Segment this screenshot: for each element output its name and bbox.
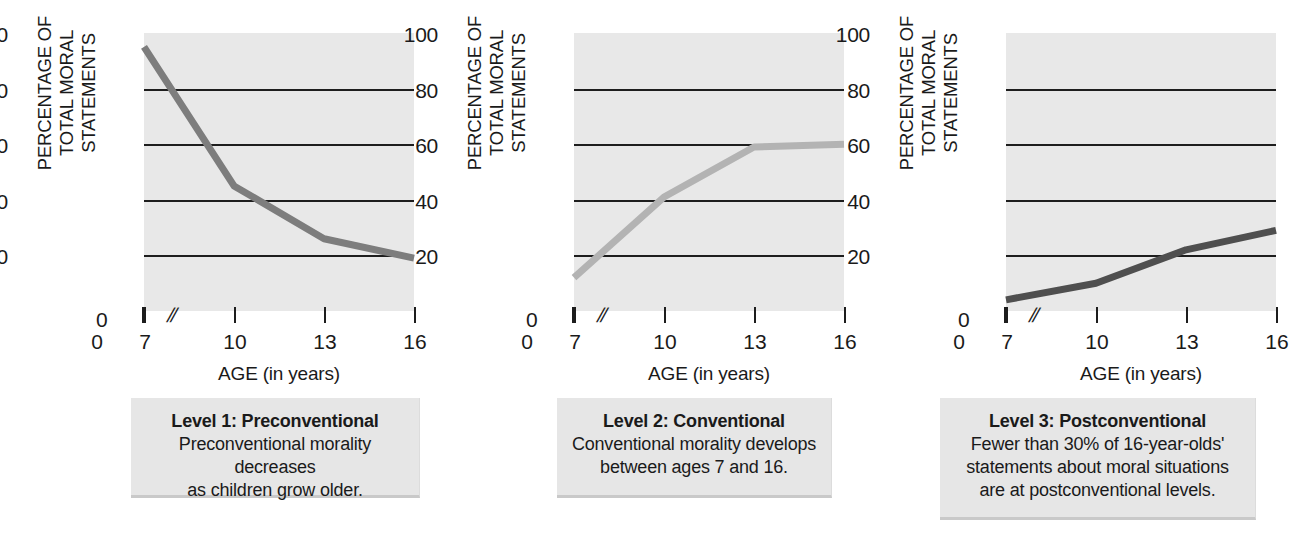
- y-tick-100: 100: [0, 24, 8, 45]
- x-tick-label-10: 10: [645, 331, 685, 352]
- x-axis-title: AGE (in years): [1006, 364, 1276, 383]
- chart-panel-level-1: PERCENTAGE OF TOTAL MORAL STATEMENTS 100…: [0, 0, 430, 557]
- moral-development-figure: PERCENTAGE OF TOTAL MORAL STATEMENTS 100…: [0, 0, 1292, 557]
- x-axis-zero-label: 0: [958, 309, 970, 330]
- x-tick-label-13: 13: [735, 331, 775, 352]
- y-axis-title: PERCENTAGE OF TOTAL MORAL STATEMENTS: [896, 0, 962, 208]
- y-tick-20: 20: [368, 246, 438, 267]
- plot-area: [144, 33, 414, 311]
- x-axis-title: AGE (in years): [144, 364, 414, 383]
- chart-level-1: PERCENTAGE OF TOTAL MORAL STATEMENTS 100…: [0, 0, 430, 375]
- y-tick-80: 80: [800, 80, 870, 101]
- x-axis-zero-label: 0: [96, 309, 108, 330]
- y-axis-title-line-1: PERCENTAGE OF: [896, 0, 918, 208]
- plot-area: [1006, 33, 1276, 311]
- x-tick-mark-7: [144, 307, 146, 323]
- y-tick-100: 100: [368, 24, 438, 45]
- x-axis-zero-label: 0: [526, 309, 538, 330]
- x-tick-label-0: 0: [939, 331, 979, 352]
- caption-title: Level 3: Postconventional: [950, 410, 1245, 433]
- x-axis-zero-row: 0 // 0 7 10 13 16: [958, 309, 1288, 337]
- x-tick-mark-16: [1276, 307, 1278, 323]
- y-tick-80: 80: [0, 80, 8, 101]
- caption-box-level-3: Level 3: Postconventional Fewer than 30%…: [940, 398, 1256, 520]
- x-axis-zero-row: 0 // 0 7 10 13 16: [96, 309, 426, 337]
- x-tick-label-7: 7: [555, 331, 595, 352]
- y-axis-title: PERCENTAGE OF TOTAL MORAL STATEMENTS: [34, 0, 100, 208]
- y-tick-60: 60: [368, 135, 438, 156]
- x-tick-mark-7: [574, 307, 576, 323]
- y-tick-20: 20: [0, 246, 8, 267]
- y-axis-title-line-1: PERCENTAGE OF: [34, 0, 56, 208]
- y-tick-40: 40: [368, 191, 438, 212]
- y-axis-title-line-2: TOTAL MORAL STATEMENTS: [486, 0, 530, 208]
- x-tick-mark-10: [1096, 307, 1098, 323]
- x-tick-label-0: 0: [77, 331, 117, 352]
- x-tick-mark-13: [754, 307, 756, 323]
- x-axis-zero-row: 0 // 0 7 10 13 16: [526, 309, 856, 337]
- x-tick-label-7: 7: [125, 331, 165, 352]
- y-tick-40: 40: [800, 191, 870, 212]
- series-line-level-1: [144, 33, 414, 311]
- y-tick-40: 40: [0, 191, 8, 212]
- x-tick-mark-10: [664, 307, 666, 323]
- x-tick-mark-16: [414, 307, 416, 323]
- x-tick-label-10: 10: [1077, 331, 1117, 352]
- x-tick-mark-13: [324, 307, 326, 323]
- x-tick-label-7: 7: [987, 331, 1027, 352]
- x-axis-title: AGE (in years): [574, 364, 844, 383]
- y-axis-title-line-1: PERCENTAGE OF: [464, 0, 486, 208]
- y-tick-20: 20: [800, 246, 870, 267]
- series-line-level-3: [1006, 33, 1276, 311]
- chart-panel-level-2: PERCENTAGE OF TOTAL MORAL STATEMENTS 100…: [430, 0, 860, 557]
- chart-panel-level-3: PERCENTAGE OF TOTAL MORAL STATEMENTS 100…: [862, 0, 1292, 557]
- y-axis-title: PERCENTAGE OF TOTAL MORAL STATEMENTS: [464, 0, 530, 208]
- caption-title: Level 1: Preconventional: [141, 410, 409, 433]
- caption-title: Level 2: Conventional: [567, 410, 821, 433]
- y-tick-80: 80: [368, 80, 438, 101]
- x-tick-label-16: 16: [395, 331, 435, 352]
- x-tick-mark-16: [844, 307, 846, 323]
- x-tick-mark-7: [1006, 307, 1008, 323]
- caption-box-level-1: Level 1: Preconventional Preconventional…: [131, 398, 420, 498]
- y-tick-100: 100: [800, 24, 870, 45]
- x-tick-label-13: 13: [1167, 331, 1207, 352]
- caption-body: Fewer than 30% of 16-year-olds' statemen…: [950, 433, 1245, 502]
- caption-box-level-2: Level 2: Conventional Conventional moral…: [557, 398, 832, 498]
- x-tick-label-0: 0: [507, 331, 547, 352]
- y-axis-title-line-2: TOTAL MORAL STATEMENTS: [56, 0, 100, 208]
- x-tick-mark-10: [234, 307, 236, 323]
- chart-level-2: PERCENTAGE OF TOTAL MORAL STATEMENTS 100…: [430, 0, 860, 375]
- x-tick-label-16: 16: [825, 331, 865, 352]
- y-axis-title-line-2: TOTAL MORAL STATEMENTS: [918, 0, 962, 208]
- plot-area: [574, 33, 844, 311]
- y-tick-60: 60: [800, 135, 870, 156]
- caption-body: Conventional morality develops between a…: [567, 433, 821, 479]
- series-line-level-2: [574, 33, 844, 311]
- x-tick-label-16: 16: [1257, 331, 1292, 352]
- x-tick-label-10: 10: [215, 331, 255, 352]
- caption-body: Preconventional morality decreases as ch…: [141, 433, 409, 502]
- chart-level-3: PERCENTAGE OF TOTAL MORAL STATEMENTS 100…: [862, 0, 1292, 375]
- x-tick-mark-13: [1186, 307, 1188, 323]
- x-tick-label-13: 13: [305, 331, 345, 352]
- y-tick-60: 60: [0, 135, 8, 156]
